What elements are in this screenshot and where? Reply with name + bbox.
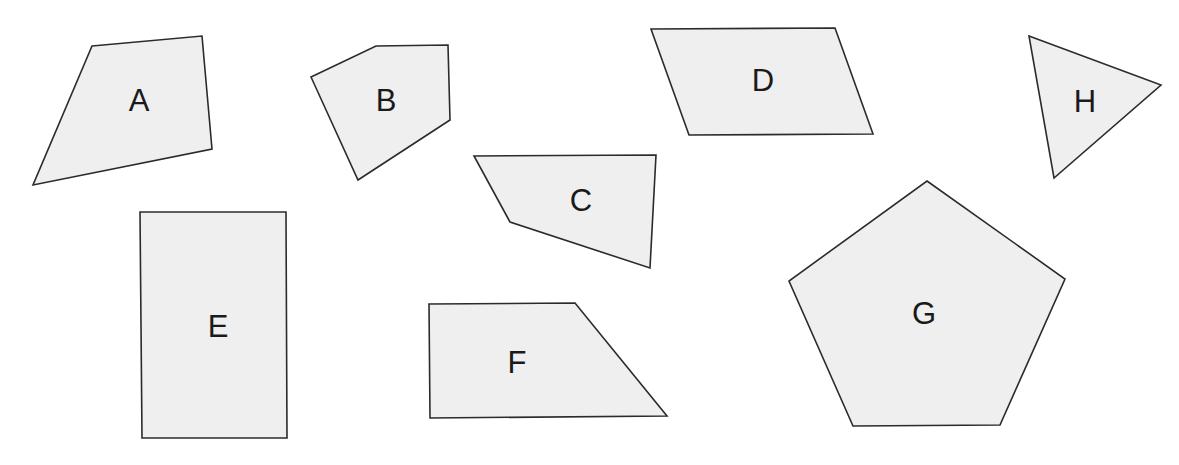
- shape-e-label: E: [208, 309, 229, 344]
- shape-c-polygon: [474, 155, 656, 268]
- shape-c: C: [474, 155, 656, 268]
- shape-f: F: [429, 303, 667, 418]
- shape-e: E: [140, 212, 287, 438]
- shapes-diagram: A B C D E F G H: [0, 0, 1179, 465]
- shape-b: B: [311, 45, 450, 180]
- shape-g-label: G: [912, 296, 936, 331]
- shape-h-label: H: [1074, 84, 1096, 119]
- shape-c-label: C: [570, 183, 592, 218]
- shape-f-label: F: [508, 345, 527, 380]
- shape-b-label: B: [376, 83, 397, 118]
- diagram-svg: A B C D E F G H: [0, 0, 1179, 465]
- shape-d-label: D: [752, 63, 774, 98]
- shape-a-label: A: [129, 83, 150, 118]
- shape-d: D: [651, 28, 873, 135]
- shape-h: H: [1029, 36, 1161, 178]
- shape-a: A: [33, 36, 212, 185]
- shape-g: G: [789, 181, 1065, 426]
- shape-f-polygon: [429, 303, 667, 418]
- shape-a-polygon: [33, 36, 212, 185]
